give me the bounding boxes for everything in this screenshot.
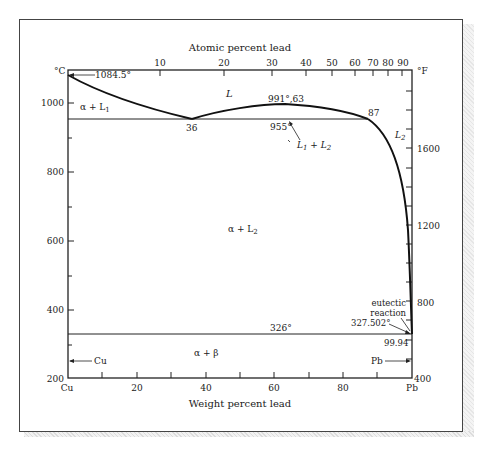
- miscibility-gap-dome: [192, 104, 368, 119]
- svg-text:70: 70: [367, 58, 379, 68]
- svg-text:80: 80: [337, 383, 349, 393]
- eutectic-temperature: 327.502°: [351, 318, 390, 328]
- svg-text:40: 40: [200, 383, 212, 393]
- cu-melting-point: 1084.5°: [95, 70, 131, 80]
- left-axis-labels: 1000 800 600 400 200: [41, 98, 64, 384]
- monotectic-right: 87: [368, 108, 380, 118]
- svg-text:1200: 1200: [417, 221, 440, 231]
- top-axis-ticks: [160, 70, 402, 76]
- svg-text:40: 40: [300, 58, 312, 68]
- arrow-icon: [69, 359, 74, 363]
- svg-text:10: 10: [154, 58, 166, 68]
- svg-text:50: 50: [326, 58, 338, 68]
- svg-text:30: 30: [266, 58, 278, 68]
- svg-text:20: 20: [131, 383, 143, 393]
- monotectic-left: 36: [186, 123, 198, 133]
- svg-text:Cu: Cu: [61, 383, 74, 393]
- svg-text:80: 80: [382, 58, 394, 68]
- arrow-icon: [406, 359, 411, 363]
- svg-text:600: 600: [47, 236, 64, 246]
- svg-text:800: 800: [417, 298, 434, 308]
- svg-text:1600: 1600: [417, 144, 440, 154]
- fahrenheit-unit: °F: [417, 66, 428, 76]
- cu-label: Cu: [94, 356, 107, 366]
- liquidus-cu-side: [68, 75, 192, 119]
- phase-L2: L2: [394, 130, 406, 142]
- eutectic-composition: 99.94: [384, 338, 408, 348]
- svg-text:60: 60: [268, 383, 280, 393]
- svg-text:60: 60: [349, 58, 361, 68]
- eutectic-isotherm-label: 326°: [270, 323, 292, 333]
- bottom-axis-title: Weight percent lead: [189, 398, 292, 409]
- right-axis-labels: 1600 1200 800 400: [414, 144, 440, 384]
- svg-text:1000: 1000: [41, 98, 64, 108]
- dome-max-point: 991°,63: [268, 94, 304, 104]
- svg-text:400: 400: [47, 305, 64, 315]
- svg-text:800: 800: [47, 167, 64, 177]
- phase-alpha-L1: α + L1: [80, 102, 110, 114]
- bottom-axis-labels: Cu 20 40 60 80 Pb: [61, 383, 418, 393]
- phase-diagram: Atomic percent lead 10 20 30 40 50 60 70…: [0, 0, 482, 455]
- svg-text:90: 90: [397, 58, 409, 68]
- eutectic-label-1: eutectic: [371, 298, 406, 308]
- top-axis-labels: 10 20 30 40 50 60 70 80 90: [154, 58, 409, 68]
- phase-alpha-L2: α + L2: [228, 224, 258, 236]
- eutectic-label-2: reaction: [370, 308, 406, 318]
- phase-alpha-beta: α + β: [194, 348, 219, 358]
- svg-text:20: 20: [218, 58, 230, 68]
- bottom-axis-ticks: [102, 372, 377, 378]
- top-axis-title: Atomic percent lead: [188, 42, 292, 53]
- pb-label: Pb: [371, 356, 383, 366]
- monotectic-temperature: 955°: [270, 122, 292, 132]
- svg-text:Pb: Pb: [406, 383, 418, 393]
- left-axis-ticks: [68, 103, 74, 345]
- phase-L: L: [225, 88, 233, 99]
- celsius-unit: °C: [54, 66, 66, 76]
- phase-L1-L2: L1 + L2: [296, 140, 332, 152]
